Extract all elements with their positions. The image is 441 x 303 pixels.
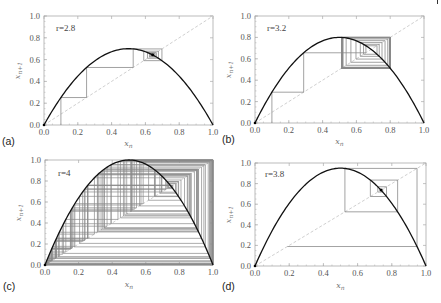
r-value-label: r=4 <box>58 168 71 178</box>
fixed-point <box>380 189 383 192</box>
y-tick-label: 0.0 <box>240 261 251 271</box>
y-tick-label: 0.6 <box>30 197 41 207</box>
x-tick-label: 0.4 <box>318 268 329 278</box>
y-tick-label: 0.2 <box>240 240 251 250</box>
x-tick-label: 0.4 <box>107 267 118 277</box>
x-tick-label: 0.0 <box>40 267 51 277</box>
logistic-curve <box>255 37 424 123</box>
panel-c: 0.00.20.40.60.81.00.00.20.40.60.81.0r=4x… <box>3 155 218 292</box>
x-tick-label: 0.6 <box>351 125 362 135</box>
y-tick-label: 1.0 <box>240 11 251 21</box>
x-tick-label: 0.2 <box>284 268 295 278</box>
y-tick-label: 0.8 <box>29 33 40 43</box>
y-tick-label: 0.2 <box>240 97 251 107</box>
r-value-label: r=3.8 <box>265 169 285 179</box>
logistic-map-cobweb-figure: 0.00.20.40.60.81.00.00.20.40.60.81.0r=2.… <box>0 0 441 303</box>
y-tick-label: 0.0 <box>30 260 41 270</box>
panel-label: (d) <box>222 280 235 292</box>
logistic-curve <box>44 49 213 125</box>
corner-mark <box>437 0 438 4</box>
panel-d: 0.00.20.40.60.81.00.00.20.40.60.81.0r=3.… <box>222 158 431 292</box>
x-tick-label: 1.0 <box>421 268 432 278</box>
panel-label: (b) <box>222 133 235 145</box>
cobweb-path <box>61 49 162 125</box>
y-axis-label: xn+1 <box>13 62 23 79</box>
panel-label: (c) <box>3 280 15 292</box>
x-tick-label: 0.0 <box>250 268 261 278</box>
panel-b: 0.00.20.40.60.81.00.00.20.40.60.81.0r=3.… <box>222 11 429 147</box>
y-tick-label: 0.6 <box>240 54 251 64</box>
x-tick-label: 0.4 <box>106 127 117 137</box>
x-tick-label: 0.0 <box>39 127 50 137</box>
x-tick-label: 0.8 <box>174 127 185 137</box>
y-tick-label: 0.8 <box>240 32 251 42</box>
x-tick-label: 0.4 <box>317 125 328 135</box>
x-tick-label: 0.8 <box>386 268 397 278</box>
x-axis-label: xn <box>335 137 344 147</box>
fixed-point <box>151 54 154 57</box>
x-tick-label: 1.0 <box>208 127 219 137</box>
y-axis-label: xn+1 <box>224 61 234 78</box>
x-tick-label: 0.0 <box>250 125 261 135</box>
x-tick-label: 0.8 <box>174 267 185 277</box>
x-tick-label: 0.2 <box>73 267 84 277</box>
origin-point <box>44 264 47 267</box>
origin-point <box>43 124 46 127</box>
x-tick-label: 1.0 <box>419 125 430 135</box>
x-tick-label: 0.2 <box>72 127 83 137</box>
y-tick-label: 0.4 <box>30 218 41 228</box>
y-tick-label: 0.0 <box>29 120 40 130</box>
x-axis-label: xn <box>124 139 133 149</box>
y-tick-label: 0.4 <box>29 76 40 86</box>
y-axis-label: xn+1 <box>14 204 24 221</box>
panel-label: (a) <box>2 135 15 147</box>
x-axis-label: xn <box>336 281 345 291</box>
y-tick-label: 0.8 <box>240 179 251 189</box>
x-tick-label: 0.2 <box>283 125 294 135</box>
y-tick-label: 0.0 <box>240 118 251 128</box>
y-tick-label: 0.4 <box>240 75 251 85</box>
r-value-label: r=3.2 <box>267 23 286 33</box>
y-tick-label: 0.2 <box>29 98 40 108</box>
x-tick-label: 1.0 <box>208 267 219 277</box>
y-tick-label: 1.0 <box>30 155 41 165</box>
y-tick-label: 0.2 <box>30 239 41 249</box>
y-tick-label: 0.6 <box>240 199 251 209</box>
y-tick-label: 0.8 <box>30 176 41 186</box>
panel-a: 0.00.20.40.60.81.00.00.20.40.60.81.0r=2.… <box>2 11 218 149</box>
x-tick-label: 0.8 <box>385 125 396 135</box>
logistic-curve <box>255 168 426 266</box>
x-tick-label: 0.6 <box>352 268 363 278</box>
r-value-label: r=2.8 <box>56 23 76 33</box>
y-tick-label: 1.0 <box>240 158 251 168</box>
x-tick-label: 0.6 <box>140 127 151 137</box>
y-tick-label: 0.6 <box>29 55 40 65</box>
y-tick-label: 1.0 <box>29 11 40 21</box>
y-axis-label: xn+1 <box>224 206 234 223</box>
origin-point <box>254 265 257 268</box>
origin-point <box>254 122 257 125</box>
x-tick-label: 0.6 <box>140 267 151 277</box>
y-tick-label: 0.4 <box>240 220 251 230</box>
x-axis-label: xn <box>125 280 134 290</box>
